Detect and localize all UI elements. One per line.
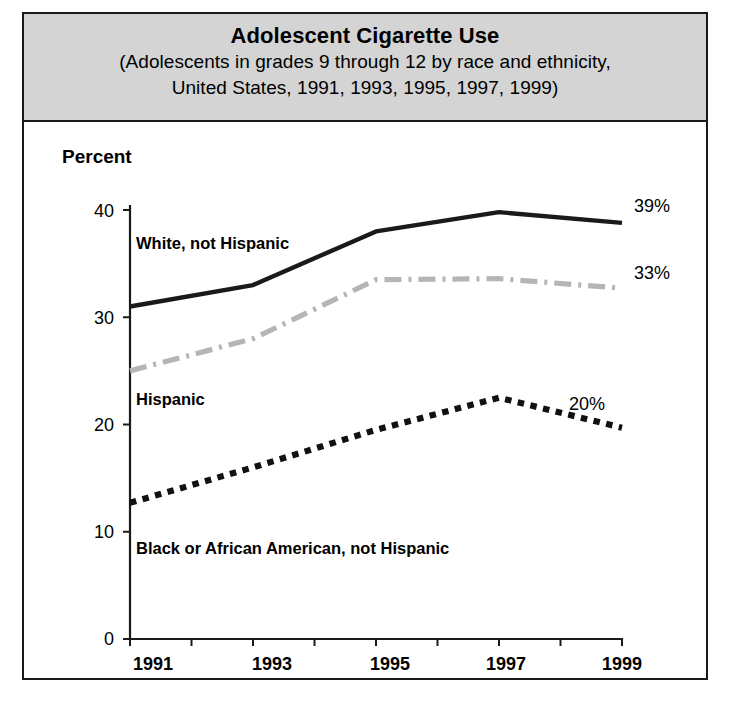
y-tick-label-0: 0 — [104, 629, 114, 649]
x-tick-labels: 1991 1993 1995 1997 1999 — [133, 654, 642, 674]
value-label-hispanic: 33% — [634, 263, 670, 283]
chart-subtitle-line-1: (Adolescents in grades 9 through 12 by r… — [24, 49, 706, 75]
y-tick-label-40: 40 — [94, 201, 114, 221]
value-label-black-or-african-american: 20% — [569, 394, 605, 414]
x-tick-label-1999: 1999 — [602, 654, 642, 674]
chart-plot-svg: 0 10 20 30 40 1991 1993 — [24, 122, 706, 678]
y-tick-label-30: 30 — [94, 308, 114, 328]
x-tick-label-1991: 1991 — [133, 654, 173, 674]
y-tick-label-10: 10 — [94, 522, 114, 542]
chart-figure: Adolescent Cigarette Use (Adolescents in… — [22, 12, 708, 680]
series-label-hispanic: Hispanic — [136, 390, 205, 408]
chart-subtitle-line-2: United States, 1991, 1993, 1995, 1997, 1… — [24, 75, 706, 101]
title-banner: Adolescent Cigarette Use (Adolescents in… — [24, 14, 706, 122]
x-tick-label-1995: 1995 — [370, 654, 410, 674]
series-line-white-not-hispanic — [130, 212, 622, 306]
series-label-black-or-african-american: Black or African American, not Hispanic — [136, 539, 449, 557]
chart-title: Adolescent Cigarette Use — [24, 23, 706, 49]
x-tick-label-1997: 1997 — [486, 654, 526, 674]
series-line-black-or-african-american — [130, 398, 622, 503]
series-label-white-not-hispanic: White, not Hispanic — [136, 234, 289, 252]
plot-region: Percent 0 10 20 30 40 — [24, 122, 706, 678]
value-label-white-not-hispanic: 39% — [634, 196, 670, 216]
x-tick-label-1993: 1993 — [252, 654, 292, 674]
y-tick-labels: 0 10 20 30 40 — [94, 201, 114, 649]
y-tick-label-20: 20 — [94, 415, 114, 435]
